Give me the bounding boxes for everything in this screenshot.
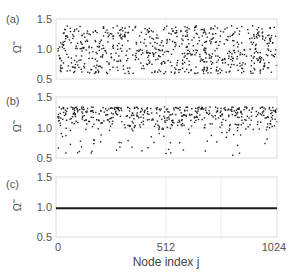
ytick-c-bottom: 0.5	[37, 231, 52, 243]
panel-a: (a) 1.5 1.0 0.5 Ω̃	[6, 13, 277, 85]
figure: (a) 1.5 1.0 0.5 Ω̃ (b) 1.5 1.0 0.5 Ω̃ (c…	[0, 0, 302, 278]
ytick-c-top: 1.5	[37, 171, 52, 183]
x-axis: 0 512 1024 Node index j	[55, 241, 286, 269]
xtick-1024: 1024	[262, 241, 286, 253]
panel-b: (b) 1.5 1.0 0.5 Ω̃	[6, 91, 277, 164]
xtick-0: 0	[55, 241, 61, 253]
ylabel-a: Ω̃	[11, 41, 23, 53]
ytick-c-mid: 1.0	[37, 201, 52, 213]
panel-label-c: (c)	[6, 178, 19, 190]
ytick-b-mid: 1.0	[37, 122, 52, 134]
ytick-a-mid: 1.0	[37, 43, 52, 55]
ytick-a-bottom: 0.5	[37, 73, 52, 85]
ytick-b-top: 1.5	[37, 91, 52, 103]
scatter-points-a	[57, 25, 277, 74]
ytick-b-bottom: 0.5	[37, 152, 52, 164]
panel-c: (c) 1.5 1.0 0.5 Ω̃	[6, 171, 277, 243]
ylabel-b: Ω̃	[11, 120, 23, 132]
panel-label-a: (a)	[6, 13, 19, 25]
ylabel-c: Ω̃	[11, 199, 23, 211]
panel-label-b: (b)	[6, 95, 19, 107]
xtick-512: 512	[157, 241, 175, 253]
x-axis-label: Node index j	[133, 255, 200, 269]
scatter-points-b	[57, 106, 277, 156]
ytick-a-top: 1.5	[37, 13, 52, 25]
